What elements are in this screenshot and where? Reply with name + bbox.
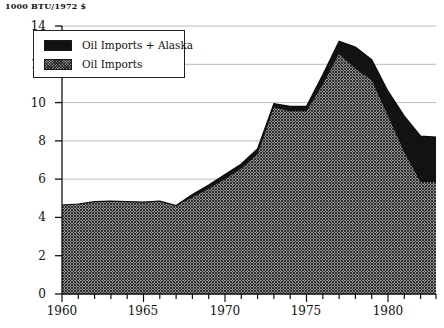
y-tick-label-2: 2	[20, 250, 46, 262]
legend-item-oil-imports-plus-alaska: Oil Imports + Alaska	[44, 39, 193, 52]
x-tick-label-1980: 1980	[365, 305, 411, 317]
y-tick-label-6: 6	[20, 173, 46, 185]
legend-swatch-black-icon	[44, 40, 72, 51]
chart-legend: Oil Imports + Alaska Oil Imports	[33, 30, 185, 78]
x-tick-label-1970: 1970	[202, 305, 248, 317]
y-tick-label-8: 8	[20, 135, 46, 147]
x-tick-label-1960: 1960	[39, 305, 85, 317]
x-axis-ticks	[62, 294, 436, 302]
legend-item-oil-imports: Oil Imports	[44, 58, 142, 71]
x-tick-label-1965: 1965	[120, 305, 166, 317]
y-tick-label-4: 4	[20, 211, 46, 223]
legend-label-oil-imports-plus-alaska: Oil Imports + Alaska	[82, 40, 193, 51]
legend-swatch-hatch-icon	[44, 59, 72, 70]
figure-caption	[0, 319, 444, 328]
legend-label-oil-imports: Oil Imports	[82, 59, 142, 70]
y-tick-label-10: 10	[20, 97, 46, 109]
y-tick-label-0: 0	[20, 288, 46, 300]
x-tick-label-1975: 1975	[283, 305, 329, 317]
chart-root: 1000 BTU/1972 $	[0, 0, 444, 328]
